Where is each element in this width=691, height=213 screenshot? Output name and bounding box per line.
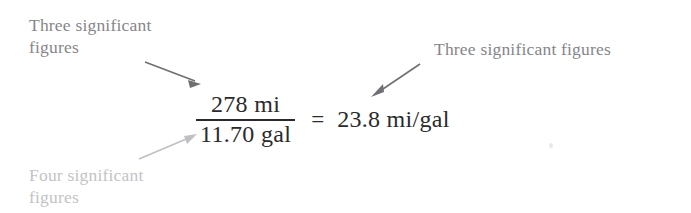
- fraction-denominator: 11.70 gal: [196, 121, 295, 148]
- equation-result: 23.8 mi/gal: [337, 106, 450, 133]
- annotation-top-right: Three significant figures: [434, 38, 611, 60]
- significant-figures-figure: Three significant figures Three signific…: [0, 0, 691, 213]
- arrow-to-numerator-icon: [145, 62, 201, 88]
- annotation-bottom-left: Four significant figures: [29, 164, 144, 208]
- fraction: 278 mi 11.70 gal: [196, 92, 295, 148]
- arrow-to-denominator-icon: [139, 134, 197, 159]
- paper-speck: [549, 143, 553, 148]
- annotation-top-left: Three significant figures: [29, 14, 151, 58]
- equals-sign: =: [311, 107, 324, 133]
- equation: 278 mi 11.70 gal = 23.8 mi/gal: [196, 92, 450, 148]
- fraction-numerator: 278 mi: [206, 92, 285, 119]
